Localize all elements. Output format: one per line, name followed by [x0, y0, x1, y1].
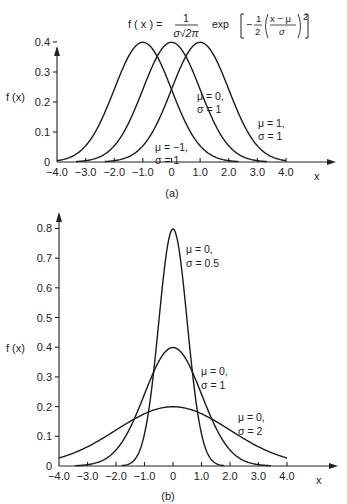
svg-text:1: 1: [256, 13, 261, 24]
formula-numerator: 1: [183, 12, 189, 24]
series-label: σ = 1: [155, 154, 179, 166]
formula-denominator: σ√2π: [174, 27, 200, 39]
curve--1-1: [105, 42, 286, 161]
x-tick-label: −1.0: [134, 470, 156, 482]
series-label: σ = 0.5: [186, 257, 219, 269]
normal-distribution-figure: f ( x ) = 1 σ√2π exp − 1 2 x − μ σ 2 −4.…: [0, 0, 347, 504]
y-tick-label: 0.3: [37, 371, 52, 383]
figure-caption: (b): [161, 490, 174, 502]
x-tick-label: 1.0: [194, 470, 209, 482]
series-label: σ = 1: [197, 103, 221, 115]
x-axis-arrow-icon: [327, 159, 336, 165]
y-axis-arrow-icon: [56, 212, 62, 222]
x-tick-label: −3.0: [77, 470, 99, 482]
series-label: σ = 1: [201, 379, 225, 391]
y-axis-label: f (x): [6, 91, 25, 103]
chart-a: −4.0−3.0−2.0−1.001.02.03.04.000.10.20.30…: [6, 36, 336, 199]
x-tick-label: 2.0: [222, 470, 237, 482]
y-tick-label: 0.1: [37, 430, 52, 442]
y-tick-label: 0.6: [37, 282, 52, 294]
y-tick-label: 0: [44, 156, 50, 168]
x-tick-label: −2.0: [105, 470, 127, 482]
y-tick-label: 0.2: [37, 401, 52, 413]
x-tick-label: 3.0: [250, 166, 265, 178]
chart-b: −4.0−3.0−2.0−1.001.02.03.04.000.10.20.30…: [6, 212, 338, 502]
y-axis-label: f (x): [6, 342, 25, 354]
x-tick-label: 1.0: [192, 166, 207, 178]
x-tick-label: −3.0: [75, 166, 97, 178]
series-label: μ = 1,: [258, 117, 285, 129]
y-axis-arrow-icon: [54, 46, 60, 56]
x-tick-label: 4.0: [279, 470, 294, 482]
y-tick-label: 0.3: [35, 66, 50, 78]
series-label: μ = 0,: [238, 411, 265, 423]
svg-text:x − μ: x − μ: [270, 13, 291, 24]
x-tick-label: 2.0: [221, 166, 236, 178]
y-tick-label: 0.8: [37, 222, 52, 234]
x-tick-label: 4.0: [278, 166, 293, 178]
series-label: μ = 0,: [197, 90, 224, 102]
series-label: μ = 0,: [186, 243, 213, 255]
y-tick-label: 0: [46, 460, 52, 472]
series-label: μ = 0,: [201, 365, 228, 377]
x-tick-label: −2.0: [103, 166, 125, 178]
x-tick-label: 0: [170, 470, 176, 482]
series-label: μ = −1,: [155, 141, 188, 153]
y-tick-label: 0.7: [37, 252, 52, 264]
figure-caption: (a): [165, 187, 178, 199]
y-tick-label: 0.4: [37, 341, 52, 353]
x-tick-label: −1.0: [132, 166, 154, 178]
svg-text:−: −: [246, 18, 252, 30]
formula: f ( x ) = 1 σ√2π exp − 1 2 x − μ σ 2: [128, 12, 308, 39]
y-tick-label: 0.2: [35, 96, 50, 108]
svg-text:σ: σ: [279, 26, 286, 37]
formula-exp: exp: [212, 18, 229, 30]
y-tick-label: 0.5: [37, 312, 52, 324]
x-axis-label: x: [314, 170, 320, 182]
x-tick-label: 0: [168, 166, 174, 178]
formula-lhs: f ( x ) =: [128, 18, 163, 30]
x-axis-label: x: [316, 474, 322, 486]
series-label: σ = 1: [258, 130, 282, 142]
svg-text:2: 2: [255, 26, 260, 37]
x-tick-label: 3.0: [251, 470, 266, 482]
y-tick-label: 0.4: [35, 36, 50, 48]
x-axis-arrow-icon: [329, 463, 338, 469]
y-tick-label: 0.1: [35, 126, 50, 138]
series-label: σ = 2: [238, 425, 262, 437]
